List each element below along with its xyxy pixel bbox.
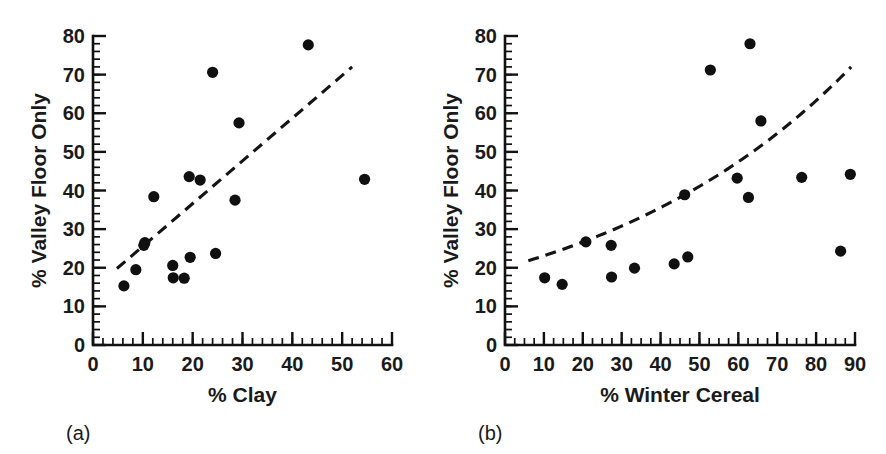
x-tick-label: 0 bbox=[87, 353, 98, 375]
data-point bbox=[303, 39, 314, 50]
y-tick-label: 70 bbox=[475, 64, 497, 86]
data-point bbox=[682, 251, 693, 262]
data-point bbox=[130, 264, 141, 275]
y-tick-label: 30 bbox=[63, 218, 85, 240]
y-axis-ticks: 01020304050607080 bbox=[475, 25, 518, 356]
y-tick-label: 10 bbox=[63, 295, 85, 317]
figure-container: 010203040506001020304050607080% Clay% Va… bbox=[0, 0, 886, 454]
data-point bbox=[118, 280, 129, 291]
data-point bbox=[148, 191, 159, 202]
data-point bbox=[229, 195, 240, 206]
y-tick-label: 0 bbox=[74, 334, 85, 356]
y-tick-label: 60 bbox=[63, 102, 85, 124]
data-point bbox=[744, 38, 755, 49]
y-axis-title: % Valley Floor Only bbox=[27, 93, 50, 288]
scatter-plot-a: 010203040506001020304050607080% Clay% Va… bbox=[0, 0, 443, 454]
data-point bbox=[233, 117, 244, 128]
x-tick-label: 40 bbox=[649, 353, 671, 375]
data-point bbox=[796, 172, 807, 183]
data-point bbox=[606, 271, 617, 282]
x-tick-label: 0 bbox=[499, 353, 510, 375]
trend-line bbox=[528, 67, 851, 261]
axis-lines bbox=[505, 36, 855, 345]
x-tick-label: 20 bbox=[572, 353, 594, 375]
x-tick-label: 30 bbox=[231, 353, 253, 375]
x-axis-title: % Winter Cereal bbox=[600, 383, 760, 406]
data-point bbox=[179, 273, 190, 284]
x-axis-title: % Clay bbox=[208, 383, 277, 406]
trend-line bbox=[117, 67, 352, 269]
y-tick-label: 40 bbox=[63, 180, 85, 202]
data-point bbox=[184, 171, 195, 182]
y-tick-label: 10 bbox=[475, 295, 497, 317]
data-point bbox=[705, 64, 716, 75]
x-tick-label: 80 bbox=[805, 353, 827, 375]
data-point bbox=[168, 272, 179, 283]
data-point bbox=[629, 263, 640, 274]
panel-caption: (a) bbox=[66, 422, 90, 444]
data-point bbox=[835, 246, 846, 257]
data-point bbox=[185, 252, 196, 263]
y-tick-label: 60 bbox=[475, 102, 497, 124]
data-point bbox=[845, 169, 856, 180]
y-tick-label: 20 bbox=[475, 257, 497, 279]
data-point bbox=[167, 260, 178, 271]
x-tick-label: 60 bbox=[381, 353, 403, 375]
x-tick-label: 60 bbox=[727, 353, 749, 375]
data-point bbox=[195, 174, 206, 185]
y-tick-label: 20 bbox=[63, 257, 85, 279]
data-point bbox=[606, 240, 617, 251]
x-tick-label: 10 bbox=[132, 353, 154, 375]
y-tick-label: 50 bbox=[475, 141, 497, 163]
panel-a: 010203040506001020304050607080% Clay% Va… bbox=[0, 0, 443, 454]
y-tick-label: 80 bbox=[475, 25, 497, 47]
data-point bbox=[139, 237, 150, 248]
data-point bbox=[210, 248, 221, 259]
y-tick-label: 0 bbox=[486, 334, 497, 356]
panel-b: 010203040506070809001020304050607080% Wi… bbox=[443, 0, 886, 454]
x-tick-label: 30 bbox=[611, 353, 633, 375]
data-point bbox=[732, 173, 743, 184]
y-axis-ticks: 01020304050607080 bbox=[63, 25, 106, 356]
x-tick-label: 90 bbox=[844, 353, 866, 375]
data-point-group bbox=[539, 38, 856, 290]
data-point bbox=[679, 189, 690, 200]
data-point bbox=[207, 67, 218, 78]
x-tick-label: 50 bbox=[688, 353, 710, 375]
y-axis-title: % Valley Floor Only bbox=[443, 93, 462, 288]
x-tick-label: 20 bbox=[182, 353, 204, 375]
y-tick-label: 50 bbox=[63, 141, 85, 163]
data-point bbox=[743, 192, 754, 203]
x-tick-label: 50 bbox=[331, 353, 353, 375]
data-point bbox=[539, 272, 550, 283]
data-point bbox=[669, 258, 680, 269]
data-point bbox=[755, 115, 766, 126]
data-point bbox=[557, 279, 568, 290]
x-tick-label: 10 bbox=[533, 353, 555, 375]
scatter-plot-b: 010203040506070809001020304050607080% Wi… bbox=[443, 0, 886, 454]
data-point bbox=[580, 236, 591, 247]
axis-lines bbox=[93, 36, 392, 345]
x-tick-label: 70 bbox=[766, 353, 788, 375]
x-axis-ticks: 0102030405060 bbox=[87, 332, 403, 375]
x-tick-label: 40 bbox=[281, 353, 303, 375]
data-point bbox=[359, 174, 370, 185]
y-tick-label: 70 bbox=[63, 64, 85, 86]
data-point-group bbox=[118, 39, 370, 291]
y-tick-label: 80 bbox=[63, 25, 85, 47]
panel-caption: (b) bbox=[478, 422, 502, 444]
y-tick-label: 30 bbox=[475, 218, 497, 240]
y-tick-label: 40 bbox=[475, 180, 497, 202]
